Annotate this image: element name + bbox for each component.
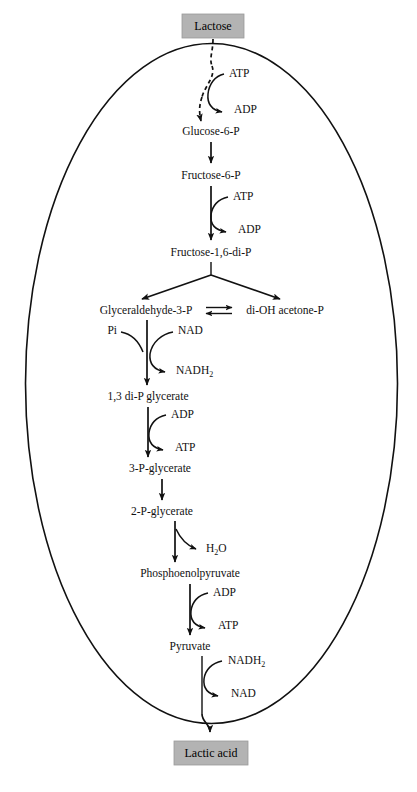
adp1-label: ADP [234, 103, 257, 115]
adp3-label: ADP [171, 408, 194, 420]
nadh2-output-curve [150, 354, 165, 372]
atp3-output-curve [149, 433, 163, 450]
atp4-output-curve [191, 611, 205, 628]
h2o-label-main: H [206, 542, 214, 554]
nadh2-input-curve [204, 661, 222, 679]
glucose-6-p-label: Glucose-6-P [182, 125, 240, 137]
pi-label: Pi [107, 324, 117, 336]
pi-input-curve [121, 332, 143, 352]
atp2-input-curve [211, 197, 228, 215]
nadh2-output-label-sub: 2 [209, 369, 213, 378]
nadh2-input-label-main: NADH [228, 654, 261, 666]
adp3-input-curve [149, 415, 166, 433]
pyruvate-label: Pyruvate [170, 640, 211, 653]
nad-input-curve [150, 332, 173, 354]
atp4-label: ATP [218, 619, 238, 631]
nad1-label: NAD [178, 324, 203, 336]
lactose-transport-dashed-arrow [200, 97, 202, 121]
nad-output-curve [204, 679, 218, 696]
arrow-fbp-to-g3p [142, 275, 211, 299]
adp2-output-curve [211, 215, 226, 232]
arrow-fbp-to-dhap [211, 275, 280, 299]
nadh2-output-label-main: NADH [176, 364, 209, 376]
nadh2-input-label: NADH2 [228, 654, 265, 669]
h2o-output-curve [176, 529, 196, 549]
2-p-glycerate-label: 2-P-glycerate [131, 505, 193, 518]
h2o-label: H2O [206, 542, 227, 557]
lactose-transport-dashed-segment-2 [202, 66, 213, 97]
glyceraldehyde-3-p-label: Glyceraldehyde-3-P [100, 304, 193, 317]
diagram-page: Lactose ATP ADP Glucose-6-P Fructose-6-P… [0, 0, 417, 792]
adp4-input-curve [191, 593, 208, 611]
nad2-label: NAD [231, 687, 256, 699]
adp4-label: ADP [213, 586, 236, 598]
fructose-6-p-label: Fructose-6-P [181, 169, 240, 181]
di-oh-acetone-p-label: di-OH acetone-P [246, 304, 324, 316]
nadh2-output-label: NADH2 [176, 364, 213, 379]
atp3-label: ATP [175, 441, 195, 453]
glycolysis-pathway-diagram: Lactose ATP ADP Glucose-6-P Fructose-6-P… [0, 0, 417, 792]
h2o-label-tail: O [218, 542, 226, 554]
adp2-label: ADP [238, 223, 261, 235]
lactose-label: Lactose [194, 19, 231, 33]
nadh2-input-label-sub: 2 [261, 659, 265, 668]
lactic-acid-label: Lactic acid [185, 746, 238, 760]
1-3-di-p-glycerate-label: 1,3 di-P glycerate [107, 390, 188, 403]
phosphoenolpyruvate-label: Phosphoenolpyruvate [140, 567, 240, 580]
fructose-1-6-di-p-label: Fructose-1,6-di-P [171, 246, 252, 259]
atp2-label: ATP [233, 190, 253, 202]
atp1-input-curve [208, 74, 224, 94]
atp1-label: ATP [229, 67, 249, 79]
3-p-glycerate-label: 3-P-glycerate [129, 462, 191, 475]
adp1-output-curve [208, 94, 222, 112]
